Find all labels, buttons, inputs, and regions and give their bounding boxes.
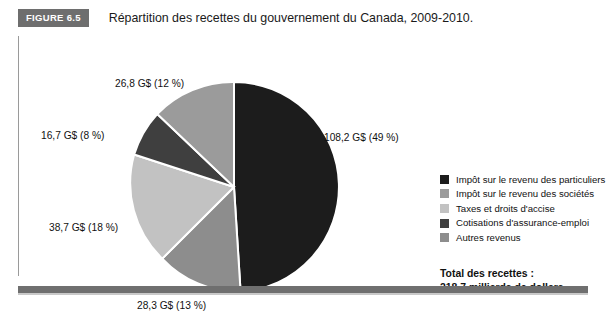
- legend-swatch-icon: [440, 175, 449, 184]
- pie-label-assurance-emploi: 16,7 G$ (8 %): [41, 130, 104, 141]
- pie-label-societes: 26,8 G$ (12 %): [115, 78, 184, 89]
- legend-item-autres: Autres revenus: [440, 230, 610, 245]
- legend-item-assurance-emploi: Cotisations d'assurance-emploi: [440, 216, 610, 231]
- chart-legend: Impôt sur le revenu des particuliers Imp…: [440, 172, 610, 245]
- pie-chart-svg: [127, 80, 341, 294]
- legend-label: Impôt sur le revenu des particuliers: [456, 175, 605, 185]
- figure-body-panel: 108,2 G$ (49 %) 26,8 G$ (12 %) 16,7 G$ (…: [18, 36, 582, 276]
- legend-label: Impôt sur le revenu des sociétés: [456, 189, 594, 199]
- legend-label: Cotisations d'assurance-emploi: [456, 218, 589, 228]
- legend-swatch-icon: [440, 219, 449, 228]
- legend-label: Taxes et droits d'accise: [456, 204, 555, 214]
- pie-label-particuliers: 108,2 G$ (49 %): [324, 132, 399, 143]
- figure-header: FIGURE 6.5 Répartition des recettes du g…: [0, 0, 600, 36]
- legend-swatch-icon: [440, 233, 449, 242]
- footer-strip: [18, 286, 588, 293]
- pie-chart: [127, 80, 341, 294]
- pie-label-accise: 38,7 G$ (18 %): [49, 222, 118, 233]
- pie-label-autres: 28,3 G$ (13 %): [137, 300, 206, 311]
- legend-item-societes: Impôt sur le revenu des sociétés: [440, 187, 610, 202]
- legend-swatch-icon: [440, 189, 449, 198]
- pie-slice-particuliers: [234, 82, 339, 292]
- legend-item-particuliers: Impôt sur le revenu des particuliers: [440, 172, 610, 187]
- legend-item-accise: Taxes et droits d'accise: [440, 201, 610, 216]
- figure-number-badge: FIGURE 6.5: [18, 9, 89, 27]
- legend-swatch-icon: [440, 204, 449, 213]
- figure-title: Répartition des recettes du gouvernement…: [109, 11, 473, 25]
- legend-label: Autres revenus: [456, 233, 521, 243]
- total-label: Total des recettes :: [440, 267, 564, 281]
